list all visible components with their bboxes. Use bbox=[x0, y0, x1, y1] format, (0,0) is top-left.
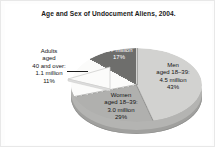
chart-figure: Age and Sex of Undocument Aliens, 2004. bbox=[0, 0, 215, 147]
slice-label-women: Women aged 18–39: 3.0 million 29% bbox=[89, 92, 153, 122]
slice-label-men: Men aged 18–39: 4.5 million 43% bbox=[145, 62, 201, 92]
chart-title: Age and Sex of Undocument Aliens, 2004. bbox=[5, 10, 212, 18]
slice-label-women-line3: 3.0 million bbox=[89, 107, 153, 114]
slice-label-men-line1: Men bbox=[145, 62, 201, 69]
slice-label-men-line3: 4.5 million bbox=[145, 77, 201, 84]
slice-label-adults-line1: Adults bbox=[11, 48, 87, 55]
slice-label-children: Children under 18: 1.7 million 17% bbox=[91, 32, 147, 62]
slice-label-children-line4: 17% bbox=[91, 54, 147, 61]
slice-label-women-line1: Women bbox=[89, 92, 153, 99]
slice-label-adults-line5: 11% bbox=[11, 78, 87, 85]
slice-label-women-line4: 29% bbox=[89, 114, 153, 121]
chart-canvas: Age and Sex of Undocument Aliens, 2004. bbox=[5, 4, 212, 145]
slice-label-men-line4: 43% bbox=[145, 84, 201, 91]
callout-leader-line bbox=[67, 71, 88, 72]
slice-label-children-line2: under 18: bbox=[91, 39, 147, 46]
slice-label-adults: Adults aged 40 and over: 1.1 million 11% bbox=[11, 48, 87, 85]
slice-label-men-line2: aged 18–39: bbox=[145, 69, 201, 76]
slice-label-children-line3: 1.7 million bbox=[91, 47, 147, 54]
slice-label-adults-line3: 40 and over: bbox=[11, 63, 87, 70]
slice-label-children-line1: Children bbox=[91, 32, 147, 39]
slice-label-adults-line2: aged bbox=[11, 55, 87, 62]
slice-label-women-line2: aged 18–39: bbox=[89, 99, 153, 106]
